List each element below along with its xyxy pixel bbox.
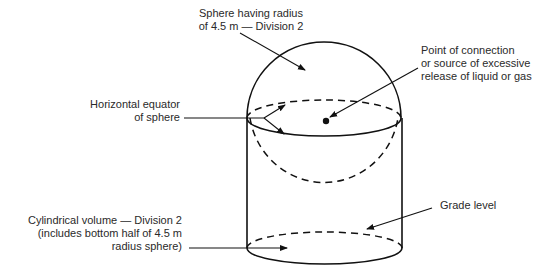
cylinder-label: Cylindrical volume — Division 2 (include…: [10, 214, 182, 253]
sphere-label-line1: Sphere having radius: [176, 7, 326, 20]
source-label: Point of connection or source of excessi…: [421, 44, 532, 83]
grade-label-line1: Grade level: [440, 199, 496, 212]
cylinder-label-line2: (includes bottom half of 4.5 m: [10, 227, 182, 240]
grade-leader-arrow: [367, 208, 432, 229]
equator-label: Horizontal equator of sphere: [60, 98, 180, 124]
source-label-line2: or source of excessive: [421, 57, 532, 70]
sphere-label: Sphere having radius of 4.5 m — Division…: [176, 7, 326, 33]
sphere-leader-arrow: [240, 33, 305, 70]
grade-ellipse-front: [247, 248, 402, 264]
equator-back-dashed: [247, 100, 401, 118]
equator-label-line2: of sphere: [60, 111, 180, 124]
equator-leader-arrow-back: [264, 105, 285, 118]
cylinder-label-line3: radius sphere): [10, 240, 182, 253]
grade-label: Grade level: [440, 199, 496, 212]
cylinder-label-line1: Cylindrical volume — Division 2: [10, 214, 182, 227]
equator-label-line1: Horizontal equator: [60, 98, 180, 111]
source-label-line3: release of liquid or gas: [421, 70, 532, 83]
source-point-dot: [323, 118, 329, 124]
source-label-line1: Point of connection: [421, 44, 532, 57]
source-leader-arrow: [330, 68, 418, 117]
sphere-lower-hemisphere-dashed: [250, 118, 398, 182]
grade-ellipse-back-dashed: [247, 232, 402, 248]
sphere-label-line2: of 4.5 m — Division 2: [176, 20, 326, 33]
sphere-upper-hemisphere: [247, 42, 401, 118]
